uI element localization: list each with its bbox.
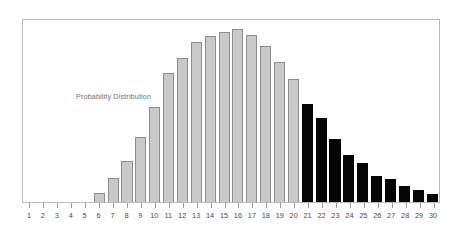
tick-6 [99, 203, 100, 208]
tick-14 [211, 203, 212, 208]
tick-25 [364, 203, 365, 208]
tick-7 [113, 203, 114, 208]
tick-24 [350, 203, 351, 208]
x-axis-label-14: 14 [203, 210, 217, 221]
bar-slot-2 [38, 20, 49, 202]
tick-28 [406, 203, 407, 208]
x-axis-label-25: 25 [356, 210, 370, 221]
bar-slot-22 [316, 20, 327, 202]
bar-11 [163, 73, 174, 202]
x-axis-label-2: 2 [36, 210, 50, 221]
bar-6 [94, 193, 105, 202]
tick-3 [57, 203, 58, 208]
bar-24 [343, 155, 354, 202]
bar-slot-30 [427, 20, 438, 202]
bar-slot-19 [274, 20, 285, 202]
probability-distribution-chart: Probability Distribution 123456789101112… [0, 0, 455, 233]
bar-26 [371, 176, 382, 202]
x-axis-label-19: 19 [273, 210, 287, 221]
bar-slot-12 [177, 20, 188, 202]
tick-17 [252, 203, 253, 208]
x-axis-label-11: 11 [161, 210, 175, 221]
x-axis-label-9: 9 [133, 210, 147, 221]
x-axis-label-10: 10 [147, 210, 161, 221]
x-axis-label-12: 12 [175, 210, 189, 221]
x-axis-label-17: 17 [245, 210, 259, 221]
tick-30 [434, 203, 435, 208]
x-axis-label-4: 4 [64, 210, 78, 221]
x-axis-label-22: 22 [315, 210, 329, 221]
x-axis-label-8: 8 [120, 210, 134, 221]
x-axis-label-24: 24 [342, 210, 356, 221]
tick-5 [85, 203, 86, 208]
bar-slot-18 [260, 20, 271, 202]
bar-slot-7 [108, 20, 119, 202]
bar-slot-20 [288, 20, 299, 202]
bar-28 [399, 186, 410, 202]
bar-23 [329, 139, 340, 202]
x-axis-label-20: 20 [287, 210, 301, 221]
bar-slot-17 [246, 20, 257, 202]
tick-29 [420, 203, 421, 208]
x-axis-label-13: 13 [189, 210, 203, 221]
bar-29 [413, 190, 424, 202]
bar-slot-11 [163, 20, 174, 202]
tick-16 [238, 203, 239, 208]
tick-15 [225, 203, 226, 208]
tick-9 [141, 203, 142, 208]
bar-slot-8 [121, 20, 132, 202]
x-axis-label-15: 15 [217, 210, 231, 221]
bar-27 [385, 179, 396, 202]
tick-2 [43, 203, 44, 208]
bar-21 [302, 104, 313, 202]
bar-slot-3 [52, 20, 63, 202]
bar-18 [260, 46, 271, 202]
tick-13 [197, 203, 198, 208]
x-axis-label-6: 6 [92, 210, 106, 221]
x-axis-ticks [22, 203, 440, 210]
tick-11 [169, 203, 170, 208]
x-axis-label-1: 1 [22, 210, 36, 221]
tick-8 [127, 203, 128, 208]
tick-20 [294, 203, 295, 208]
bar-10 [149, 107, 160, 202]
x-axis-label-26: 26 [370, 210, 384, 221]
bar-20 [288, 79, 299, 202]
x-axis-labels: 1234567891011121314151617181920212223242… [22, 210, 440, 224]
x-axis-label-18: 18 [259, 210, 273, 221]
bar-slot-9 [135, 20, 146, 202]
bar-slot-24 [343, 20, 354, 202]
bar-7 [108, 178, 119, 202]
bar-30 [427, 194, 438, 202]
bar-slot-29 [413, 20, 424, 202]
bar-slot-26 [371, 20, 382, 202]
bar-19 [274, 62, 285, 202]
bar-22 [316, 118, 327, 202]
x-axis-label-28: 28 [398, 210, 412, 221]
bar-slot-4 [66, 20, 77, 202]
tick-21 [308, 203, 309, 208]
x-axis-label-27: 27 [384, 210, 398, 221]
bar-8 [121, 161, 132, 202]
bar-slot-13 [191, 20, 202, 202]
x-axis-label-16: 16 [231, 210, 245, 221]
x-axis-label-21: 21 [301, 210, 315, 221]
bar-slot-15 [219, 20, 230, 202]
tick-26 [378, 203, 379, 208]
x-axis-label-7: 7 [106, 210, 120, 221]
bar-slot-28 [399, 20, 410, 202]
bar-slot-27 [385, 20, 396, 202]
x-axis-label-3: 3 [50, 210, 64, 221]
tick-23 [336, 203, 337, 208]
x-axis-label-30: 30 [426, 210, 440, 221]
bar-slot-25 [357, 20, 368, 202]
tick-22 [322, 203, 323, 208]
tick-10 [155, 203, 156, 208]
bar-slot-1 [24, 20, 35, 202]
bar-12 [177, 58, 188, 202]
tick-4 [71, 203, 72, 208]
tick-18 [266, 203, 267, 208]
tick-12 [183, 203, 184, 208]
bar-16 [232, 29, 243, 202]
bar-14 [205, 36, 216, 202]
